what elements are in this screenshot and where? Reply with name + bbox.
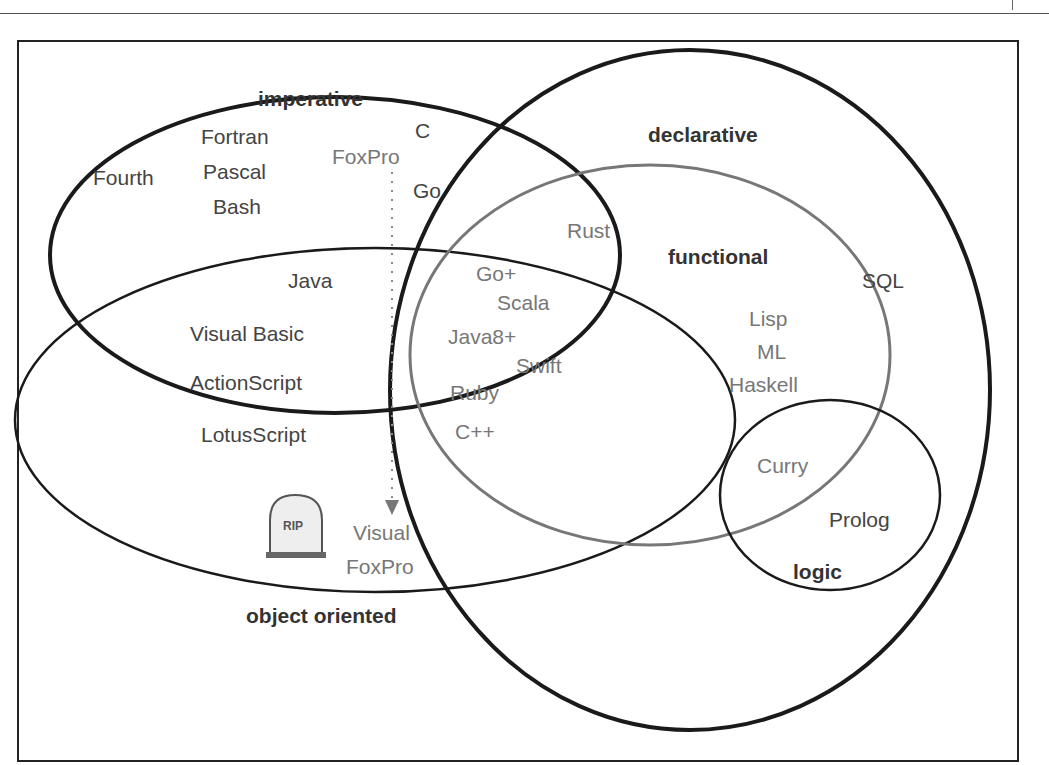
lang-foxpro: FoxPro <box>332 146 400 167</box>
lang-go-plus: Go+ <box>476 263 516 284</box>
lang-actionscript: ActionScript <box>190 372 302 393</box>
lang-curry: Curry <box>757 455 808 476</box>
lang-swift: Swift <box>516 355 562 376</box>
lang-go: Go <box>413 180 441 201</box>
lang-visual-foxpro: FoxPro <box>346 556 414 577</box>
set-label-imperative: imperative <box>258 88 363 109</box>
lang-fourth: Fourth <box>93 167 154 188</box>
lang-prolog: Prolog <box>829 509 890 530</box>
tombstone-text: RIP <box>283 520 303 532</box>
lang-java: Java <box>288 270 332 291</box>
lang-ml: ML <box>757 341 786 362</box>
lang-ruby: Ruby <box>450 382 499 403</box>
set-label-declarative: declarative <box>648 124 758 145</box>
lang-lotusscript: LotusScript <box>201 424 306 445</box>
set-label-functional: functional <box>668 246 768 267</box>
lang-java8-plus: Java8+ <box>448 326 516 347</box>
lang-rust: Rust <box>567 220 610 241</box>
set-label-object-oriented: object oriented <box>246 605 397 626</box>
lang-haskell: Haskell <box>729 374 798 395</box>
lang-fortran: Fortran <box>201 126 269 147</box>
lang-visual: Visual <box>353 522 410 543</box>
lang-lisp: Lisp <box>749 308 788 329</box>
lang-cpp: C++ <box>455 421 495 442</box>
venn-diagram <box>0 0 1049 765</box>
lang-bash: Bash <box>213 196 261 217</box>
functional-ellipse <box>410 165 890 545</box>
lang-c: C <box>415 120 430 141</box>
diagram-frame <box>18 41 1018 761</box>
lang-pascal: Pascal <box>203 161 266 182</box>
lang-visual-basic: Visual Basic <box>190 323 304 344</box>
set-label-logic: logic <box>793 561 842 582</box>
lang-sql: SQL <box>862 270 904 291</box>
migration-arrow-head <box>385 500 399 515</box>
lang-scala: Scala <box>497 292 550 313</box>
